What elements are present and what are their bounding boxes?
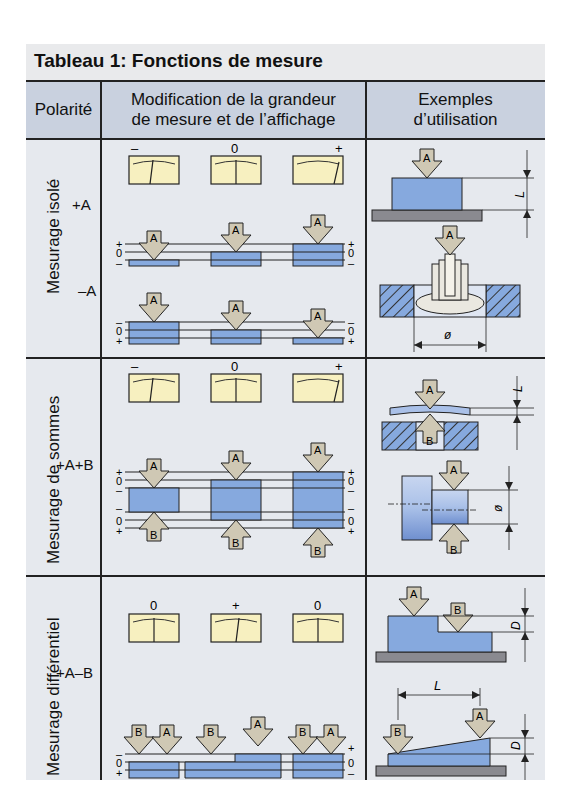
svg-text:A: A	[232, 224, 240, 236]
svg-text:A: A	[232, 452, 240, 464]
header-examples: Exemples d’utilisation	[366, 82, 545, 138]
example-bore-diameter: A ø	[380, 226, 520, 352]
row-label-differential: Mesurage différentiel	[44, 618, 64, 776]
svg-text:–: –	[348, 257, 355, 269]
header-examples-line1: Exemples	[418, 90, 493, 110]
svg-text:A: A	[254, 718, 262, 730]
example-taper-difference: B A L D	[376, 678, 534, 780]
svg-text:–: –	[348, 484, 355, 496]
header-polarity: Polarité	[26, 82, 101, 138]
svg-text:ø: ø	[491, 504, 505, 512]
svg-text:+: +	[116, 525, 122, 537]
svg-text:B: B	[207, 726, 214, 738]
svg-text:L: L	[511, 385, 525, 392]
svg-text:B: B	[454, 604, 461, 616]
svg-text:B: B	[232, 537, 239, 549]
svg-text:–: –	[348, 767, 355, 779]
svg-text:–: –	[116, 484, 123, 496]
svg-text:D: D	[509, 741, 523, 750]
measurement-functions-table: Tableau 1: Fonctions de mesure Polarité …	[26, 44, 545, 780]
svg-text:A: A	[450, 464, 458, 476]
svg-text:+: +	[335, 141, 343, 156]
example-block-length: A L	[372, 149, 534, 238]
svg-text:+: +	[335, 359, 343, 374]
svg-text:B: B	[394, 726, 401, 738]
svg-text:–: –	[116, 502, 123, 514]
svg-text:B: B	[450, 544, 457, 556]
svg-text:A: A	[446, 229, 454, 241]
svg-text:+: +	[116, 767, 122, 779]
header-modification: Modification de la grandeur de mesure et…	[101, 82, 366, 138]
svg-text:–: –	[348, 502, 355, 514]
svg-text:A: A	[423, 152, 431, 164]
svg-text:D: D	[509, 621, 523, 630]
svg-text:A: A	[232, 302, 240, 314]
svg-text:–: –	[131, 359, 139, 374]
svg-text:L: L	[434, 678, 441, 693]
svg-text:A: A	[163, 726, 171, 738]
row-label-isolated: Mesurage isolé	[44, 179, 64, 294]
usage-examples: A L A ø	[366, 140, 545, 780]
svg-text:ø: ø	[444, 328, 452, 342]
table-title-band: Tableau 1: Fonctions de mesure	[26, 44, 545, 80]
svg-text:A: A	[150, 232, 158, 244]
svg-text:0: 0	[150, 598, 157, 613]
svg-text:–: –	[116, 257, 123, 269]
row-label-sum: Mesurage de sommes	[44, 396, 64, 564]
table-title: Tableau 1: Fonctions de mesure	[34, 50, 323, 72]
header-examples-line2: d’utilisation	[413, 110, 497, 130]
meters-row1: – 0 +	[129, 141, 343, 184]
meters-row3: 0 + 0	[129, 598, 343, 642]
header-modification-line2: de mesure et de l’affichage	[132, 110, 336, 130]
svg-text:B: B	[314, 545, 321, 557]
svg-text:A: A	[314, 216, 322, 228]
svg-text:B: B	[299, 726, 306, 738]
svg-text:+: +	[232, 598, 240, 613]
header-polarity-text: Polarité	[35, 100, 93, 120]
svg-text:A: A	[314, 310, 322, 322]
polarity-a-plus-b: +A+B	[56, 456, 94, 473]
example-plate-sum: A B L	[382, 376, 534, 450]
table-header: Polarité Modification de la grandeur de …	[26, 80, 545, 140]
svg-text:A: A	[426, 384, 434, 396]
svg-text:A: A	[327, 726, 335, 738]
example-step-difference: A B D	[376, 587, 534, 662]
svg-text:B: B	[135, 726, 142, 738]
svg-text:B: B	[150, 529, 157, 541]
svg-text:A: A	[410, 588, 418, 600]
polarity-a-minus-b: +A–B	[56, 664, 93, 681]
header-modification-line1: Modification de la grandeur	[131, 90, 336, 110]
svg-text:+: +	[348, 335, 354, 347]
polarity-minus-a: –A	[78, 282, 96, 299]
svg-text:+: +	[116, 335, 122, 347]
meters-row2: – 0 +	[129, 359, 343, 402]
example-shaft-diameter: A B ø	[388, 461, 518, 556]
svg-text:+: +	[348, 525, 354, 537]
svg-text:A: A	[150, 294, 158, 306]
svg-text:–: –	[131, 141, 139, 156]
scale-plus-a: A A A + 0 – + 0 –	[116, 215, 355, 269]
svg-text:A: A	[476, 710, 484, 722]
polarity-plus-a: +A	[72, 196, 91, 213]
svg-text:+: +	[348, 742, 354, 754]
svg-text:0: 0	[231, 141, 238, 156]
svg-text:B: B	[426, 435, 433, 447]
svg-text:0: 0	[314, 598, 321, 613]
scale-minus-a: A A A – 0 + – 0 +	[116, 293, 355, 347]
modification-diagrams: – 0 + A A A + 0 – + 0 –	[101, 140, 365, 780]
svg-text:L: L	[512, 191, 527, 198]
svg-text:A: A	[150, 460, 158, 472]
svg-text:A: A	[314, 444, 322, 456]
scale-sum: A A A B B B + 0 – – 0 + + 0 – – 0 +	[116, 443, 355, 557]
svg-text:0: 0	[231, 359, 238, 374]
scale-differential: B A B A B A – 0 + + 0 –	[116, 717, 355, 779]
